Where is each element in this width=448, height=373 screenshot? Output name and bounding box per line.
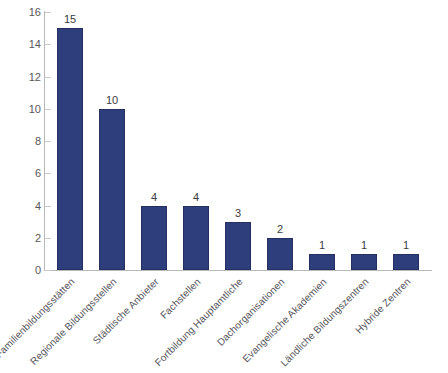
- bar[interactable]: [351, 254, 377, 270]
- y-axis-tick-label-wrap: 10: [0, 109, 41, 110]
- bar-slot: 1: [385, 12, 427, 270]
- bar[interactable]: [267, 238, 293, 270]
- bar-value-label: 10: [91, 94, 133, 106]
- y-axis-tick-label-wrap: 16: [0, 12, 41, 13]
- bar-value-label: 4: [175, 191, 217, 203]
- bar-value-label: 2: [259, 223, 301, 235]
- bar-slot: 2: [259, 12, 301, 270]
- y-axis-tick-label: 16: [5, 7, 41, 18]
- y-axis-tick-label-wrap: 0: [0, 270, 41, 271]
- y-axis-tick-label: 2: [5, 233, 41, 244]
- bar[interactable]: [225, 222, 251, 270]
- bar-chart: 0246810121416 15104432111 Familienbildun…: [0, 0, 448, 373]
- bar[interactable]: [99, 109, 125, 270]
- y-axis-tick-label: 6: [5, 168, 41, 179]
- bar-value-label: 1: [385, 239, 427, 251]
- bar-value-label: 1: [301, 239, 343, 251]
- bar[interactable]: [141, 206, 167, 271]
- y-axis-tick-label: 14: [5, 39, 41, 50]
- bar-value-label: 4: [133, 191, 175, 203]
- y-axis-tick-label-wrap: 2: [0, 238, 41, 239]
- x-axis-tick-label: Evangelische Akademien: [240, 276, 328, 364]
- bar-slot: 1: [343, 12, 385, 270]
- bar-slot: 1: [301, 12, 343, 270]
- x-axis-line: [44, 270, 432, 271]
- bar-slot: 3: [217, 12, 259, 270]
- bar-value-label: 15: [49, 13, 91, 25]
- bar[interactable]: [183, 206, 209, 271]
- bar-slot: 15: [49, 12, 91, 270]
- bar[interactable]: [393, 254, 419, 270]
- bar-value-label: 1: [343, 239, 385, 251]
- bar-slot: 4: [133, 12, 175, 270]
- x-axis-tick-label: Fortbildung Hauptamtliche: [153, 276, 245, 368]
- y-axis-tick-label-wrap: 8: [0, 141, 41, 142]
- y-axis-tick-label: 0: [5, 265, 41, 276]
- y-axis-tick-label: 4: [5, 201, 41, 212]
- bar-slot: 4: [175, 12, 217, 270]
- y-axis-tick-label-wrap: 6: [0, 173, 41, 174]
- y-axis-tick-label: 12: [5, 72, 41, 83]
- y-axis-tick: [45, 270, 51, 271]
- x-axis-tick-label: Regionale Bildungsstellen: [28, 276, 119, 367]
- bar-value-label: 3: [217, 207, 259, 219]
- y-axis-tick-label-wrap: 14: [0, 44, 41, 45]
- y-axis-tick-label-wrap: 12: [0, 77, 41, 78]
- y-axis-tick-label: 8: [5, 136, 41, 147]
- bar[interactable]: [309, 254, 335, 270]
- y-axis-tick-label: 10: [5, 104, 41, 115]
- x-axis-tick-label: Fachstellen: [158, 276, 203, 321]
- y-axis-tick-label-wrap: 4: [0, 206, 41, 207]
- bar-slot: 10: [91, 12, 133, 270]
- bar[interactable]: [57, 28, 83, 270]
